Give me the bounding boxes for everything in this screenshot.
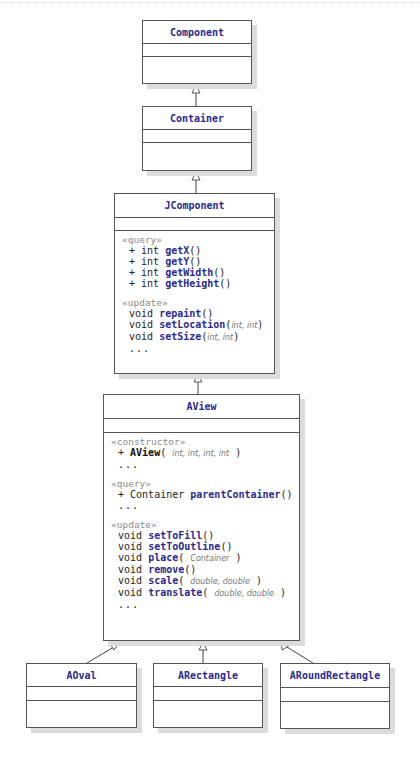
operation-getwidth: + int getWidth() — [122, 267, 274, 278]
class-arectangle: ARectangle — [153, 663, 263, 728]
attributes-compartment — [27, 687, 136, 701]
ellipsis: ... — [111, 500, 299, 511]
stereotype-update: «update» — [122, 297, 274, 308]
class-jcomponent: JComponent «query» + int getX() + int ge… — [114, 193, 275, 374]
class-component: Component — [142, 20, 252, 84]
class-name: Component — [143, 21, 251, 44]
operation-settofill: void setToFill() — [111, 530, 299, 541]
attributes-compartment — [154, 687, 262, 701]
class-aview: AView «constructor» + AView( int, int, i… — [103, 394, 300, 641]
operation-remove: void remove() — [111, 564, 299, 575]
stereotype-query: «query» — [122, 234, 274, 245]
class-aoval: AOval — [26, 663, 137, 728]
operation-aview-constructor: + AView( int, int, int, int ) — [111, 447, 299, 459]
stereotype-update: «update» — [111, 519, 299, 530]
class-name: AView — [104, 395, 299, 419]
class-name: Container — [143, 107, 251, 130]
class-container: Container — [142, 106, 252, 171]
operation-settooutline: void setToOutline() — [111, 541, 299, 552]
attributes-compartment — [143, 44, 251, 57]
ellipsis: ... — [111, 459, 299, 470]
operation-setlocation: void setLocation(int, int) — [122, 319, 274, 331]
operation-translate: void translate( double, double ) — [111, 587, 299, 599]
operation-getheight: + int getHeight() — [122, 278, 274, 289]
operation-scale: void scale( double, double ) — [111, 575, 299, 587]
ellipsis: ... — [111, 599, 299, 610]
attributes-compartment — [281, 688, 389, 702]
class-aroundrectangle: ARoundRectangle — [280, 663, 390, 729]
attributes-compartment — [104, 419, 299, 433]
operation-parentcontainer: + Container parentContainer() — [111, 489, 299, 500]
class-name: AOval — [27, 664, 136, 687]
operation-setsize: void setSize(int, int) — [122, 331, 274, 343]
attributes-compartment — [115, 218, 274, 231]
class-name: ARoundRectangle — [281, 664, 389, 688]
operation-place: void place( Container ) — [111, 552, 299, 564]
operations-compartment: «query» + int getX() + int getY() + int … — [115, 231, 274, 354]
class-name: JComponent — [115, 194, 274, 218]
operation-getx: + int getX() — [122, 245, 274, 256]
operation-repaint: void repaint() — [122, 308, 274, 319]
stereotype-query: «query» — [111, 478, 299, 489]
operations-compartment: «constructor» + AView( int, int, int, in… — [104, 433, 299, 610]
class-name: ARectangle — [154, 664, 262, 687]
ellipsis: ... — [122, 343, 274, 354]
operation-gety: + int getY() — [122, 256, 274, 267]
stereotype-constructor: «constructor» — [111, 436, 299, 447]
attributes-compartment — [143, 130, 251, 143]
